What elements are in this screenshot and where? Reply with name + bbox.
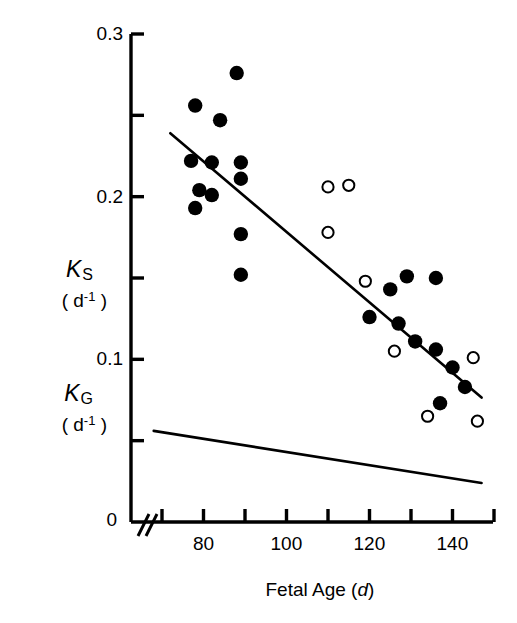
kg-unit-open: ( d <box>62 414 84 435</box>
data-point-open <box>343 180 354 191</box>
data-point-filled <box>234 227 248 241</box>
y-axis-unit-kg: ( d-1 ) <box>62 414 107 434</box>
scatter-figure: 0.3 0.2 0.1 0 80 100 120 140 KS ( d-1 ) … <box>0 0 517 623</box>
ytick-label-0: 0 <box>106 510 117 529</box>
plot-canvas <box>0 0 517 623</box>
data-point-filled <box>408 334 422 348</box>
ytick-label-0.2: 0.2 <box>97 187 123 206</box>
ytick-label-0.3: 0.3 <box>97 24 123 43</box>
data-point-filled <box>234 155 248 169</box>
data-point-filled <box>445 360 459 374</box>
y-axis-unit-ks: ( d-1 ) <box>62 290 107 310</box>
ytick-label-0.1: 0.1 <box>97 349 123 368</box>
kg-unit-exponent: -1 <box>84 413 96 428</box>
ks-regression-line <box>170 133 481 397</box>
data-point-filled <box>391 316 405 330</box>
data-point-filled <box>362 310 376 324</box>
data-markers-layer <box>184 66 483 427</box>
x-axis-title-close: ) <box>368 579 374 600</box>
data-point-filled <box>184 154 198 168</box>
x-axis-title-text: Fetal Age ( <box>266 579 358 600</box>
data-point-filled <box>429 342 443 356</box>
ks-unit-open: ( d <box>62 290 84 311</box>
kg-subscript: G <box>80 390 93 407</box>
data-point-filled <box>188 201 202 215</box>
data-point-open <box>422 411 433 422</box>
kg-regression-line <box>154 431 482 483</box>
ks-letter: K <box>66 256 81 282</box>
y-axis-label-kg: KG <box>64 382 93 407</box>
axes-layer <box>131 34 494 536</box>
xtick-label-120: 120 <box>354 534 386 553</box>
ks-unit-exponent: -1 <box>84 289 96 304</box>
x-axis-title: Fetal Age (d) <box>266 580 375 599</box>
data-point-open <box>468 352 479 363</box>
data-point-filled <box>433 396 447 410</box>
ks-subscript: S <box>81 266 93 283</box>
y-axis-label-ks: KS <box>66 258 93 283</box>
data-point-filled <box>205 188 219 202</box>
data-point-filled <box>400 269 414 283</box>
kg-letter: K <box>64 380 79 406</box>
ks-unit-close: ) <box>95 290 107 311</box>
data-point-filled <box>230 66 244 80</box>
xtick-label-100: 100 <box>271 534 303 553</box>
data-point-filled <box>188 98 202 112</box>
data-point-filled <box>205 155 219 169</box>
xtick-label-80: 80 <box>193 534 214 553</box>
data-point-filled <box>234 172 248 186</box>
data-point-filled <box>192 183 206 197</box>
data-point-open <box>322 227 333 238</box>
data-point-open <box>389 346 400 357</box>
kg-unit-close: ) <box>95 414 107 435</box>
data-point-filled <box>458 380 472 394</box>
data-point-open <box>322 181 333 192</box>
data-point-open <box>472 416 483 427</box>
x-axis-title-unit: d <box>357 579 368 600</box>
data-point-open <box>360 276 371 287</box>
data-point-filled <box>429 271 443 285</box>
data-point-filled <box>213 113 227 127</box>
data-point-filled <box>234 268 248 282</box>
xtick-label-140: 140 <box>437 534 469 553</box>
data-point-filled <box>383 282 397 296</box>
